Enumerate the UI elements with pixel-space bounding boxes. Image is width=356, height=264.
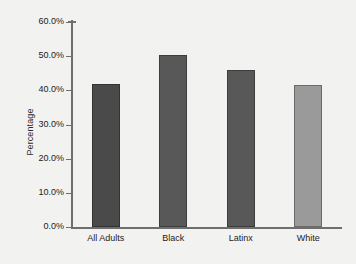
x-axis-line bbox=[71, 227, 342, 229]
y-tick-label: 50.0% bbox=[4, 51, 64, 60]
bar-chart: Percentage 0.0%10.0%20.0%30.0%40.0%50.0%… bbox=[0, 0, 356, 264]
bar bbox=[159, 55, 187, 227]
bar bbox=[227, 70, 255, 228]
bar bbox=[92, 84, 120, 228]
y-tick-label: 10.0% bbox=[4, 188, 64, 197]
y-tick-label: 0.0% bbox=[4, 222, 64, 231]
y-tick-mark bbox=[66, 227, 72, 228]
bar bbox=[294, 85, 322, 227]
y-tick-label: 30.0% bbox=[4, 120, 64, 129]
y-tick-label: 60.0% bbox=[4, 17, 64, 26]
plot-area bbox=[72, 22, 342, 227]
y-tick-label: 20.0% bbox=[4, 154, 64, 163]
y-tick-label: 40.0% bbox=[4, 85, 64, 94]
x-tick-label: White bbox=[258, 233, 356, 243]
